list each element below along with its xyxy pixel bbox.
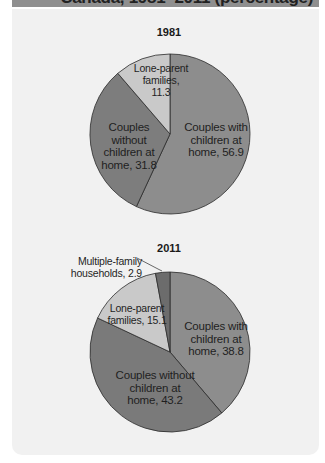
- label-1981-couples-with: Couples with children at home, 56.9: [176, 121, 256, 159]
- label-1981-couples-without: Couples without children at home, 31.8: [94, 121, 164, 171]
- label-2011-lone-parent: Lone-parent families, 15.1: [102, 302, 172, 326]
- chart-title-2011: 2011: [139, 242, 199, 254]
- label-2011-multiple-family: Multiple-family households, 2.9: [62, 255, 142, 279]
- label-2011-couples-without: Couples without children at home, 43.2: [105, 369, 205, 407]
- chart-title-1981: 1981: [139, 26, 199, 38]
- label-1981-lone-parent: Lone-parent families, 11.3: [126, 62, 196, 98]
- label-2011-couples-with: Couples with children at home, 38.8: [176, 320, 256, 358]
